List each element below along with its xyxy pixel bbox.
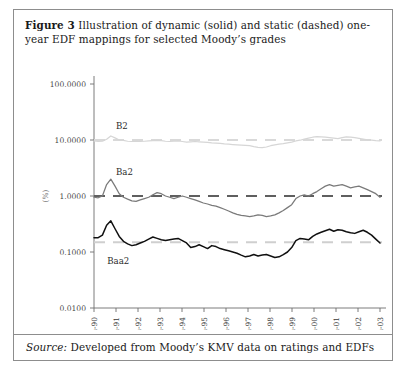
y-axis-tick-labels: 100.000010.00001.00000.10000.0100	[50, 80, 86, 313]
x-axis-tick-label: Jan-96	[222, 317, 231, 330]
y-axis-tick-label: 10.0000	[55, 136, 87, 145]
source-label: Source:	[26, 341, 67, 353]
edf-line-chart: 100.000010.00001.00000.10000.0100 Jan-90…	[14, 62, 392, 330]
figure-number: Figure 3	[25, 19, 75, 31]
y-axis-tick-label: 0.0100	[59, 304, 86, 313]
figure-box: Figure 3 Illustration of dynamic (solid)…	[13, 9, 393, 361]
source-note: Source: Developed from Moody’s KMV data …	[26, 341, 374, 353]
x-axis-tick-label: Jan-01	[332, 317, 341, 330]
x-axis-tick-label: Jan-97	[244, 317, 253, 330]
x-axis-tick-label: Jan-93	[156, 317, 165, 330]
x-axis-tick-labels: Jan-90Jan-91Jan-92Jan-93Jan-94Jan-95Jan-…	[90, 317, 385, 330]
x-axis-tick-marks	[94, 308, 380, 312]
figure-caption-text: Illustration of dynamic (solid) and stat…	[25, 19, 370, 45]
series-annotation-ba2: Ba2	[116, 167, 133, 177]
x-axis-tick-label: Jan-98	[266, 317, 275, 330]
source-text: Developed from Moody’s KMV data on ratin…	[67, 341, 374, 353]
x-axis-tick-label: Jan-03	[376, 317, 385, 330]
series-annotation-baa2: Baa2	[107, 256, 129, 266]
x-axis-tick-label: Jan-91	[112, 317, 121, 330]
y-axis-tick-label: 0.1000	[59, 248, 86, 257]
source-divider	[14, 334, 392, 335]
x-axis-tick-label: Jan-95	[200, 317, 209, 330]
series-line-ba2	[94, 179, 380, 216]
chart-plot-region: 100.000010.00001.00000.10000.0100 Jan-90…	[14, 62, 392, 330]
static-mapping-dashed-lines	[94, 140, 382, 242]
series-line-b2	[94, 136, 380, 148]
x-axis-tick-label: Jan-94	[178, 317, 187, 330]
x-axis-tick-label: Jan-99	[288, 317, 297, 330]
series-annotation-b2: B2	[116, 121, 128, 131]
series-line-baa2	[94, 221, 380, 258]
y-axis-tick-label: 1.0000	[59, 192, 86, 201]
x-axis-tick-label: Jan-92	[134, 317, 143, 330]
y-axis-title: (%)	[41, 189, 50, 202]
y-axis-tick-marks	[90, 84, 94, 308]
figure-caption: Figure 3 Illustration of dynamic (solid)…	[25, 18, 383, 46]
x-axis-tick-label: Jan-90	[90, 317, 99, 330]
x-axis-tick-label: Jan-02	[354, 317, 363, 330]
x-axis-tick-label: Jan-00	[310, 317, 319, 330]
y-axis-tick-label: 100.0000	[50, 80, 86, 89]
